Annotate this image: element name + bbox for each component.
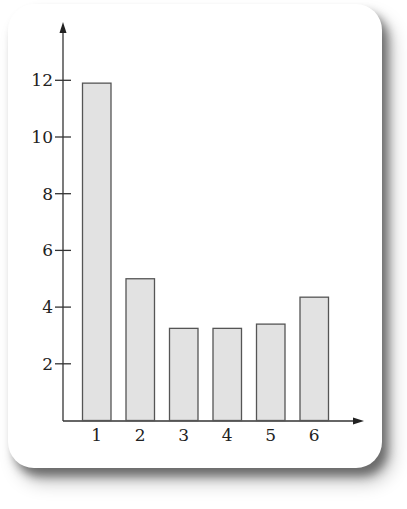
bar-6: [300, 297, 329, 420]
x-tick-label: 3: [178, 425, 189, 445]
bar-5: [257, 324, 286, 420]
x-tick-label: 6: [309, 425, 320, 445]
y-tick-label: 6: [42, 240, 53, 260]
bar-2: [126, 279, 155, 421]
x-tick-labels: 123456: [91, 425, 319, 445]
x-tick-label: 2: [135, 425, 146, 445]
y-axis-arrow-icon: [60, 22, 67, 33]
y-tick-label: 10: [31, 127, 53, 147]
y-tick-label: 2: [42, 354, 53, 374]
bar-3: [170, 328, 199, 420]
y-ticks: 24681012: [31, 70, 71, 374]
x-tick-label: 5: [265, 425, 276, 445]
y-tick-label: 12: [31, 70, 53, 90]
x-tick-label: 1: [91, 425, 102, 445]
x-tick-label: 4: [222, 425, 233, 445]
y-tick-label: 4: [42, 297, 53, 317]
bar-4: [213, 328, 242, 420]
bar-1: [83, 83, 112, 420]
bar-chart: 24681012 123456: [0, 0, 407, 509]
x-axis-arrow-icon: [353, 418, 364, 425]
y-tick-label: 8: [42, 184, 53, 204]
bars: [83, 83, 329, 420]
